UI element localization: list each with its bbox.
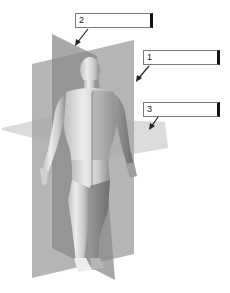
- label-number-2: 2: [79, 15, 84, 26]
- label-number-1: 1: [147, 52, 152, 63]
- label-box-2[interactable]: 2: [75, 13, 153, 28]
- diagram-canvas: [0, 0, 230, 293]
- label-box-1[interactable]: 1: [143, 50, 220, 65]
- arrow-2-head: [75, 39, 81, 46]
- anatomical-planes-diagram: 2 1 3: [0, 0, 230, 293]
- label-number-3: 3: [147, 104, 152, 115]
- label-box-3[interactable]: 3: [143, 102, 220, 117]
